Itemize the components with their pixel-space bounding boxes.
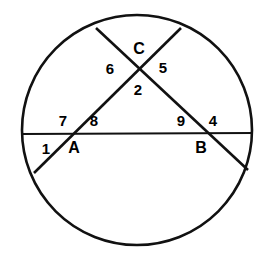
point-label-a: A xyxy=(68,140,80,156)
angle-label-2: 2 xyxy=(134,82,142,97)
chord-horizontal xyxy=(22,133,253,134)
point-label-c: C xyxy=(133,41,145,57)
angle-label-5: 5 xyxy=(159,60,167,75)
angle-label-6: 6 xyxy=(106,61,114,76)
chord-upper-left-to-lower-right xyxy=(96,28,248,170)
angle-label-8: 8 xyxy=(90,113,98,128)
angle-label-1: 1 xyxy=(42,141,50,156)
figure-canvas xyxy=(0,0,269,253)
angle-label-7: 7 xyxy=(59,113,67,128)
angle-label-4: 4 xyxy=(209,113,217,128)
angle-label-9: 9 xyxy=(177,113,185,128)
geometry-figure: C A B 6 5 2 7 8 9 4 1 xyxy=(0,0,269,253)
point-label-b: B xyxy=(195,140,207,156)
